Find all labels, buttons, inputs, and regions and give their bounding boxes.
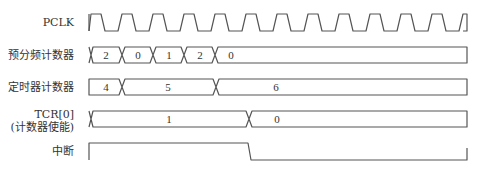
timer-counter-value: 4 — [103, 81, 109, 93]
prescaler-value: 2 — [103, 49, 109, 61]
timer-counter-value: 6 — [273, 81, 279, 93]
tcr0-bus: 1 0 — [89, 111, 467, 127]
signal-label-interrupt: 中断 — [52, 144, 74, 158]
signal-label-prescaler: 预分频计数器 — [8, 48, 74, 62]
interrupt-waveform — [89, 143, 467, 160]
tcr0-value: 1 — [166, 113, 172, 125]
prescaler-value: 2 — [197, 49, 203, 61]
prescaler-value: 1 — [166, 49, 172, 61]
prescaler-bus: 2 0 1 2 0 — [89, 47, 467, 63]
prescaler-value: 0 — [135, 49, 141, 61]
tcr0-value: 0 — [274, 113, 280, 125]
signal-label-pclk: PCLK — [43, 16, 75, 29]
timing-diagram: PCLK 预分频计数器 定时器计数器 TCR[0] (计数器使能) 中断 2 0… — [0, 0, 480, 175]
signal-label-tcr0-desc: (计数器使能) — [10, 120, 74, 134]
pclk-waveform — [89, 14, 467, 31]
timer-counter-value: 5 — [165, 81, 171, 93]
signal-label-tcr0: TCR[0] — [34, 108, 74, 121]
signal-label-timer-counter: 定时器计数器 — [8, 80, 74, 94]
prescaler-value: 0 — [228, 49, 234, 61]
timer-counter-bus: 4 5 6 — [89, 79, 467, 95]
